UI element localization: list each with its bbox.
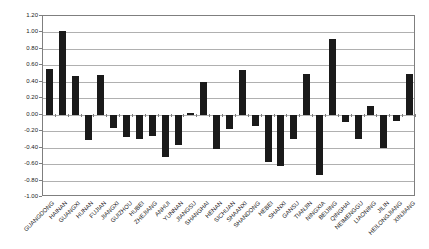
y-axis-label: 0.60: [2, 61, 38, 67]
y-axis-tick: [39, 97, 42, 98]
bar-beijing: [329, 39, 336, 115]
y-axis-label: -1.00: [2, 193, 38, 199]
category-axis-tick: [325, 114, 326, 117]
bar-ningxia: [316, 115, 323, 175]
category-axis-tick: [261, 114, 262, 117]
y-axis-tick: [39, 31, 42, 32]
bar-jilin: [380, 115, 387, 148]
bar-hunan: [85, 115, 92, 141]
category-axis-tick: [235, 114, 236, 117]
category-axis-tick: [376, 114, 377, 117]
y-axis-label: 0.80: [2, 45, 38, 51]
bar-jiangsu: [187, 113, 194, 115]
gridline: [43, 148, 414, 149]
y-axis-label: -0.20: [2, 127, 38, 133]
category-axis-tick: [145, 114, 146, 117]
category-axis-tick: [402, 114, 403, 117]
y-axis-label: -0.40: [2, 144, 38, 150]
category-axis-tick: [196, 114, 197, 117]
category-axis-tick: [132, 114, 133, 117]
y-axis-label: 0.00: [2, 111, 38, 117]
y-axis-tick: [39, 180, 42, 181]
gridline: [43, 65, 414, 66]
bar-hubei: [136, 115, 143, 139]
y-axis-tick: [39, 130, 42, 131]
category-axis-tick: [42, 114, 43, 117]
category-axis-tick: [351, 114, 352, 117]
category-axis-tick: [106, 114, 107, 117]
y-axis-tick: [39, 163, 42, 164]
bar-fujian: [97, 75, 104, 114]
category-axis-tick: [248, 114, 249, 117]
bar-anhui: [162, 115, 169, 157]
y-axis-label: 1.20: [2, 12, 38, 18]
y-axis-tick: [39, 64, 42, 65]
bar-shanghai: [200, 82, 207, 115]
gridline: [43, 49, 414, 50]
bar-shanxi: [277, 115, 284, 166]
bar-shaanxi: [239, 70, 246, 114]
category-axis-tick: [119, 114, 120, 117]
y-axis-label: -0.60: [2, 160, 38, 166]
category-axis-tick: [286, 114, 287, 117]
category-axis-tick: [415, 114, 416, 117]
category-axis-tick: [389, 114, 390, 117]
bar-tianjin: [303, 74, 310, 115]
bar-liaoning: [367, 106, 374, 115]
category-axis-tick: [364, 114, 365, 117]
gridline: [43, 32, 414, 33]
category-axis-tick: [183, 114, 184, 117]
category-axis-tick: [55, 114, 56, 117]
y-axis-tick: [39, 147, 42, 148]
category-axis-tick: [158, 114, 159, 117]
category-axis-tick: [81, 114, 82, 117]
bar-guangxi: [72, 76, 79, 115]
y-axis-label: -0.80: [2, 177, 38, 183]
y-axis-tick: [39, 196, 42, 197]
gridline: [43, 164, 414, 165]
bar-sichuan: [226, 115, 233, 129]
bar-xinjiang: [406, 74, 413, 115]
category-axis-tick: [312, 114, 313, 117]
y-axis-tick: [39, 48, 42, 49]
bar-heilongjiang: [393, 115, 400, 122]
category-axis-tick: [299, 114, 300, 117]
bar-hainan: [59, 31, 66, 115]
y-axis-label: 1.00: [2, 28, 38, 34]
bar-qinghai: [342, 115, 349, 122]
y-axis-tick: [39, 15, 42, 16]
y-axis-label: 0.40: [2, 78, 38, 84]
category-axis-tick: [338, 114, 339, 117]
gridline: [43, 181, 414, 182]
bar-guangdong: [46, 69, 53, 114]
bar-guizhou: [123, 115, 130, 137]
bar-neimenggu: [355, 115, 362, 139]
category-axis-tick: [68, 114, 69, 117]
category-axis-tick: [171, 114, 172, 117]
y-axis-tick: [39, 81, 42, 82]
bar-shandong: [252, 115, 259, 127]
category-axis-tick: [222, 114, 223, 117]
plot-area: [42, 15, 415, 196]
bar-chart: 1.201.000.800.600.400.200.00-0.20-0.40-0…: [0, 0, 429, 249]
bar-zhejiang: [149, 115, 156, 136]
y-axis-label: 0.20: [2, 94, 38, 100]
bar-henan: [213, 115, 220, 150]
bar-jiangxi: [110, 115, 117, 128]
category-axis-tick: [274, 114, 275, 117]
bar-gansu: [290, 115, 297, 140]
category-axis-tick: [209, 114, 210, 117]
bar-hebei: [265, 115, 272, 163]
bar-yunnan: [175, 115, 182, 145]
category-axis-tick: [93, 114, 94, 117]
